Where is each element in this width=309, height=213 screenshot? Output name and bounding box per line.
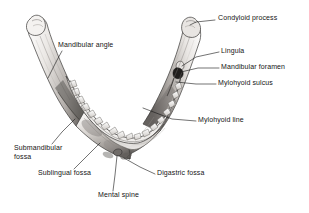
mandible-illustration: [0, 0, 309, 213]
leader-sublingual-fossa: [74, 143, 100, 169]
label-submandibular-fossa: Submandibular fossa: [14, 144, 62, 161]
label-mandibular-foramen: Mandibular foramen: [221, 63, 285, 72]
label-mandibular-angle: Mandibular angle: [58, 41, 113, 50]
label-mylohyoid-line: Mylohyoid line: [198, 116, 244, 125]
label-condyloid-process: Condyloid process: [218, 14, 277, 23]
mandible-figure: Condyloid process Lingula Mandibular for…: [0, 0, 309, 213]
right-ramus: [143, 17, 201, 131]
leader-submandibular-fossa: [52, 119, 75, 144]
label-mental-spine: Mental spine: [98, 191, 139, 200]
mental-spine-bump: [114, 149, 123, 156]
leader-digastric-fossa: [124, 158, 155, 174]
label-digastric-fossa: Digastric fossa: [157, 169, 204, 178]
leader-mental-spine: [113, 156, 117, 191]
label-sublingual-fossa: Sublingual fossa: [38, 169, 91, 178]
label-mylohyoid-sulcus: Mylohyoid sulcus: [218, 79, 273, 88]
label-lingula: Lingula: [221, 47, 244, 56]
